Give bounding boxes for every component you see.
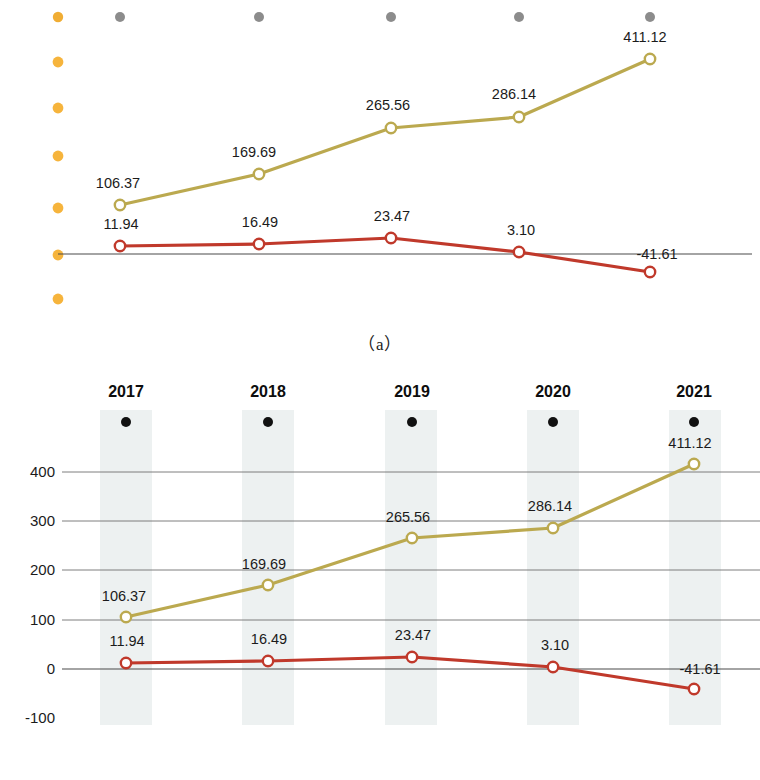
data-point[interactable]	[689, 684, 699, 694]
year-label-2018: 2018	[250, 383, 286, 400]
highlight-band	[527, 410, 579, 725]
year-marker-dot-icon	[548, 417, 558, 427]
data-point[interactable]	[121, 658, 131, 668]
data-point[interactable]	[514, 247, 524, 257]
top-dot-gray-icon	[254, 12, 264, 22]
top-dot-gray-icon	[645, 12, 655, 22]
data-point[interactable]	[645, 54, 655, 64]
year-label-2017: 2017	[108, 383, 144, 400]
data-point[interactable]	[548, 662, 558, 672]
panel-b-red-value-label: 16.49	[251, 631, 287, 647]
panel-a-khaki-value-label: 411.12	[623, 29, 666, 45]
data-point[interactable]	[263, 656, 273, 666]
panel-b-khaki-value-label: 265.56	[386, 509, 430, 525]
figure-container: 106.37 169.69 265.56 286.14 411.12 11.94…	[0, 0, 760, 780]
year-label-2020: 2020	[535, 383, 571, 400]
panel-b-y-axis: 400 300 200 100 0 -100	[25, 463, 55, 726]
panel-b-khaki-value-label: 411.12	[668, 435, 711, 451]
panel-a-red-line	[120, 238, 650, 272]
year-marker-dot-icon	[407, 417, 417, 427]
top-dot-gray-icon	[115, 12, 125, 22]
panel-a-red-value-label: -41.61	[636, 246, 677, 262]
year-marker-dot-icon	[121, 417, 131, 427]
panel-a-khaki-value-label: 169.69	[232, 144, 276, 160]
data-point[interactable]	[548, 523, 558, 533]
panel-b-khaki-value-label: 169.69	[242, 556, 286, 572]
chart-panel-a: 106.37 169.69 265.56 286.14 411.12 11.94…	[0, 0, 760, 370]
panel-b-red-value-label: -41.61	[679, 661, 720, 677]
side-dot-icon	[53, 203, 64, 214]
data-point[interactable]	[254, 239, 264, 249]
panel-b-red-value-label: 3.10	[541, 637, 569, 653]
data-point[interactable]	[115, 241, 125, 251]
data-point[interactable]	[115, 200, 125, 210]
panel-b-khaki-value-label: 286.14	[528, 498, 572, 514]
data-point[interactable]	[263, 580, 273, 590]
panel-b-khaki-value-label: 106.37	[102, 588, 146, 604]
top-dot-orange-icon	[53, 12, 63, 22]
data-point[interactable]	[121, 612, 131, 622]
year-label-2021: 2021	[676, 383, 712, 400]
panel-b-red-value-label: 23.47	[395, 627, 431, 643]
year-label-2019: 2019	[394, 383, 430, 400]
side-dot-icon	[53, 294, 64, 305]
side-dot-icon	[53, 151, 64, 162]
top-dot-gray-icon	[386, 12, 396, 22]
highlight-band	[385, 410, 437, 725]
panel-a-khaki-value-label: 265.56	[366, 97, 410, 113]
panel-b-plot: 400 300 200 100 0 -100 2017 2018 2019 20…	[0, 370, 760, 770]
data-point[interactable]	[689, 459, 699, 469]
data-point[interactable]	[386, 123, 396, 133]
panel-a-plot: 106.37 169.69 265.56 286.14 411.12 11.94…	[0, 0, 760, 330]
highlight-band	[100, 410, 152, 725]
side-dot-icon	[53, 57, 64, 68]
panel-b-year-headers: 2017 2018 2019 2020 2021	[108, 383, 712, 427]
year-marker-dot-icon	[689, 417, 699, 427]
panel-a-top-dot-row	[53, 12, 655, 22]
y-tick-label: -100	[25, 709, 55, 726]
panel-a-red-value-label: 3.10	[507, 222, 535, 238]
panel-a-khaki-value-label: 106.37	[96, 175, 140, 191]
data-point[interactable]	[514, 112, 524, 122]
data-point[interactable]	[407, 533, 417, 543]
y-tick-label: 100	[30, 611, 55, 628]
panel-a-red-value-label: 23.47	[374, 208, 410, 224]
chart-panel-b: 400 300 200 100 0 -100 2017 2018 2019 20…	[0, 370, 760, 780]
panel-a-side-dot-column	[53, 57, 64, 305]
highlight-band	[669, 410, 721, 725]
data-point[interactable]	[386, 233, 396, 243]
data-point[interactable]	[645, 267, 655, 277]
panel-a-red-markers	[115, 233, 655, 277]
side-dot-icon	[53, 103, 64, 114]
y-tick-label: 0	[47, 660, 55, 677]
y-tick-label: 400	[30, 463, 55, 480]
y-tick-label: 200	[30, 561, 55, 578]
data-point[interactable]	[407, 652, 417, 662]
panel-a-caption: （a）	[0, 330, 760, 355]
top-dot-gray-icon	[514, 12, 524, 22]
panel-a-khaki-value-label: 286.14	[492, 86, 536, 102]
panel-a-khaki-line	[120, 59, 650, 205]
side-dot-icon	[53, 250, 64, 261]
panel-a-red-value-label: 16.49	[242, 214, 278, 230]
panel-a-red-value-label: 11.94	[103, 216, 138, 232]
panel-b-red-value-label: 11.94	[109, 633, 144, 649]
year-marker-dot-icon	[263, 417, 273, 427]
data-point[interactable]	[254, 169, 264, 179]
y-tick-label: 300	[30, 512, 55, 529]
